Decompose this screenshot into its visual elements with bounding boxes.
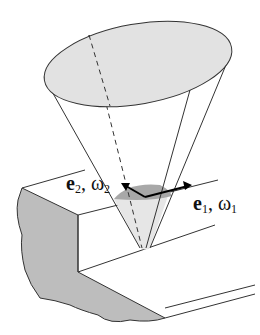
cone-base-ellipse — [37, 8, 238, 120]
label-e1-omega1: e1, ω1 — [193, 192, 237, 217]
label-e2-omega2: e2, ω2 — [66, 172, 110, 197]
diagram-canvas — [0, 0, 260, 335]
